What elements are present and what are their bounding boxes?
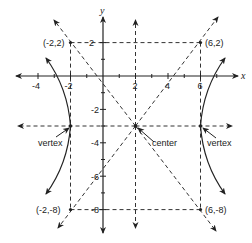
label-center: center [152,138,177,148]
x-tick-label: 2 [133,81,138,91]
label-top-right: (6,2) [205,38,224,48]
x-tick-label: -2 [65,81,73,91]
hyperbola-right-branch-upper [201,58,226,126]
x-tick-label: -4 [32,81,40,91]
label-bottom-right: (6,-8) [205,205,227,215]
x-axis-label: x [240,70,246,81]
asymptote-positive [136,17,219,126]
coordinate-axes [16,17,238,233]
right-vertex-pointer [203,128,216,138]
point-left-vertex [69,124,73,128]
hyperbola-left-branch-lower [46,126,71,194]
y-axis-label: y [99,5,105,16]
y-tick-label: -4 [91,138,99,148]
y-tick-label: 2 [89,38,94,48]
label-right-vertex: vertex [207,138,232,148]
hyperbola-diagram: -4 -2 2 4 6 2 -2 -4 -6 -8 x y (-2,2) (6,… [0,0,252,243]
y-tick-label: -8 [91,205,99,215]
guide-lines [18,17,232,231]
label-bottom-left: (-2,-8) [36,205,61,215]
point-top-right [199,41,202,44]
x-tick-label: 4 [165,81,170,91]
point-right-vertex [199,124,203,128]
left-vertex-pointer [56,128,69,137]
point-center [134,124,138,128]
label-top-left: (-2,2) [43,38,65,48]
x-tick-label: 6 [198,81,203,91]
label-left-vertex: vertex [38,138,63,148]
point-bottom-right [199,208,202,211]
y-tick-label: -2 [91,105,99,115]
hyperbola-left-branch-upper [46,58,71,126]
y-tick-label: -6 [91,172,99,182]
hyperbola-right-branch-lower [201,126,226,194]
point-top-left [69,41,72,44]
point-bottom-left [69,208,72,211]
